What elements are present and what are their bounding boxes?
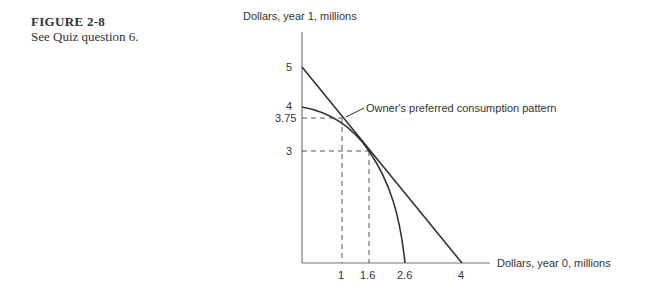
x-tick-2-6: 2.6 (397, 269, 412, 281)
market-line (302, 67, 462, 263)
chart: Dollars, year 1, millions Dollars, year … (0, 0, 651, 294)
y-axis-label: Dollars, year 1, millions (243, 10, 357, 22)
y-tick-4: 4 (286, 100, 292, 112)
x-tick-1: 1 (338, 269, 344, 281)
y-tick-5: 5 (286, 61, 292, 73)
y-tick-3: 3 (286, 145, 292, 157)
x-axis-label: Dollars, year 0, millions (497, 257, 611, 269)
x-tick-1-6: 1.6 (360, 269, 375, 281)
y-tick-3-75: 3.75 (275, 112, 296, 124)
x-tick-4: 4 (458, 269, 464, 281)
annotation-text: Owner's preferred consumption pattern (366, 102, 556, 114)
annotation-pointer (346, 108, 364, 117)
dashed-guides (302, 118, 369, 263)
